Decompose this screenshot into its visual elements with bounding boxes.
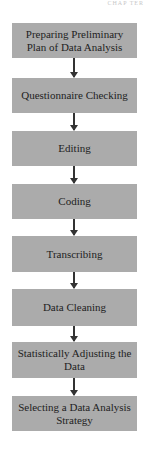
arrow-down-icon — [73, 272, 75, 288]
arrow-down-icon — [73, 378, 75, 395]
arrow-down-icon — [73, 326, 75, 341]
step-coding: Coding — [12, 184, 137, 219]
arrow-down-icon — [73, 113, 75, 130]
step-editing: Editing — [12, 131, 137, 166]
step-questionnaire-checking: Questionnaire Checking — [12, 78, 137, 113]
arrow-down-icon — [73, 166, 75, 183]
page-header-fragment: CHAP TER — [107, 0, 144, 6]
arrow-down-icon — [73, 219, 75, 235]
step-transcribing: Transcribing — [12, 236, 137, 272]
arrow-down-icon — [73, 58, 75, 77]
step-data-cleaning: Data Cleaning — [12, 289, 137, 326]
step-selecting-strategy: Selecting a Data Analysis Strategy — [12, 396, 137, 431]
step-statistically-adjusting: Statistically Adjusting the Data — [12, 342, 137, 378]
step-preparing-preliminary-plan: Preparing Preliminary Plan of Data Analy… — [12, 23, 137, 58]
